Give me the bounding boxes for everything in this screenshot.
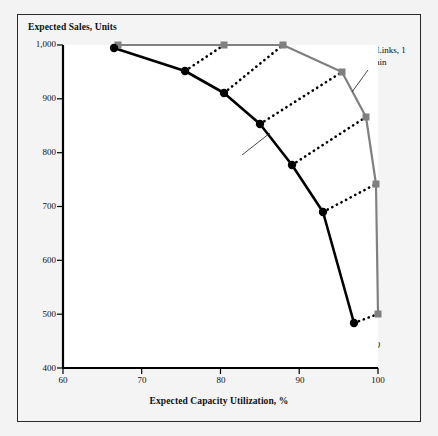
marker-nf-c-1250 [181,67,189,75]
plot-area [0,0,438,436]
marker-chain-3 [280,42,287,49]
marker-chain-7 [375,311,382,318]
figure-page: Expected Sales, Units Expected Capacity … [0,0,438,436]
marker-nf-c-500 [350,319,358,327]
marker-nf-c-1000 [256,120,264,128]
marker-chain-6 [373,181,380,188]
marker-nf-c-880 [288,161,296,169]
marker-chain-4 [339,69,346,76]
marker-chain-2 [221,42,228,49]
marker-nf-c-750 [319,208,327,216]
marker-nf-c-1500 [110,44,118,52]
marker-chain-5 [363,114,370,121]
marker-nf-c-1130 [220,89,228,97]
